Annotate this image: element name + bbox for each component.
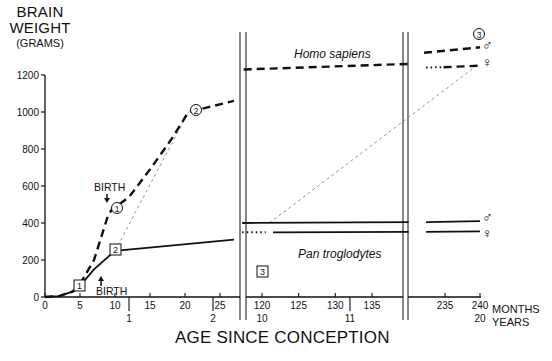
years-unit-label: YEARS [492, 316, 529, 328]
x-tick-label: 235 [437, 300, 454, 311]
pan-troglodytes-label: Pan troglodytes [298, 247, 381, 261]
svg-text:3: 3 [260, 267, 265, 277]
series-lines [45, 47, 480, 297]
square-marker-3: 3 [257, 266, 268, 277]
year-tick-label: 1 [126, 313, 132, 324]
homo-sapiens-label: Homo sapiens [294, 47, 371, 61]
circle-marker-2: 2 [191, 105, 202, 116]
x-tick-label: 135 [364, 300, 381, 311]
y-tick-label: 400 [22, 218, 39, 229]
svg-text:2: 2 [194, 106, 199, 116]
pan-female-line-seg3 [426, 231, 480, 232]
y-tick-label: 600 [22, 181, 39, 192]
square-marker-2: 2 [110, 244, 121, 255]
pan-male-line-seg2 [242, 222, 408, 223]
birth-label-pan: BIRTH [96, 285, 127, 297]
x-tick-label: 5 [77, 300, 83, 311]
x-axis-title: AGE SINCE CONCEPTION [175, 328, 390, 348]
brain-weight-chart: 020040060080010001200 051015202512120125… [0, 0, 552, 361]
year-tick-label: 2 [210, 313, 216, 324]
y-tick-label: 1200 [17, 70, 40, 81]
homo-sapiens-line-seg2 [244, 64, 409, 70]
x-tick-label: 10 [109, 300, 121, 311]
x-tick-label: 240 [472, 300, 489, 311]
circle-marker-1: 1 [112, 203, 123, 214]
arrow-down-icon [104, 194, 110, 203]
x-tick-label: 130 [327, 300, 344, 311]
svg-text:1: 1 [115, 204, 120, 214]
y-tick-label: 800 [22, 144, 39, 155]
pan-female-symbol: ♀ [482, 225, 493, 241]
homo-male-symbol: ♂ [482, 37, 493, 53]
pan-troglodytes-line-seg1 [45, 240, 234, 297]
guide-line-1 [115, 112, 189, 251]
year-tick-label: 10 [256, 313, 268, 324]
homo-sapiens-female-line [444, 66, 480, 68]
guide-line-2 [269, 66, 476, 223]
y-ticks: 020040060080010001200 [17, 70, 45, 303]
year-tick-label: 11 [345, 313, 356, 324]
months-unit-label: MONTHS [492, 303, 540, 315]
y-tick-label: 0 [33, 292, 39, 303]
x-tick-label: 20 [179, 300, 191, 311]
x-tick-label: 25 [214, 300, 226, 311]
x-tick-label: 120 [254, 300, 271, 311]
pan-male-line-seg3 [426, 221, 480, 222]
y-tick-label: 200 [22, 255, 39, 266]
year-tick-label: 20 [474, 313, 486, 324]
homo-sapiens-male-line [424, 47, 480, 53]
homo-sapiens-line-seg1 [45, 101, 234, 297]
svg-text:2: 2 [113, 245, 118, 255]
svg-text:1: 1 [77, 281, 82, 291]
square-marker-1: 1 [74, 280, 85, 291]
svg-text:3: 3 [477, 30, 482, 40]
x-tick-label: 0 [42, 300, 48, 311]
x-tick-label: 15 [144, 300, 156, 311]
birth-label-homo: BIRTH [94, 181, 125, 193]
x-tick-label: 125 [290, 300, 307, 311]
homo-female-symbol: ♀ [482, 54, 493, 70]
pan-male-symbol: ♂ [482, 209, 493, 225]
y-tick-label: 1000 [17, 107, 40, 118]
